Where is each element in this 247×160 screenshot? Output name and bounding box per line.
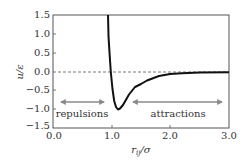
potential-curve xyxy=(108,15,229,110)
y-tick-0.0: 0.0 xyxy=(34,66,50,77)
attractions-label: attractions xyxy=(150,108,205,119)
x-tick-3.0: 3.0 xyxy=(221,130,237,141)
x-tick-labels: 0.0 1.0 2.0 3.0 xyxy=(46,130,237,141)
y-tick-1.0: 1.0 xyxy=(34,28,50,39)
x-tick-1.0: 1.0 xyxy=(104,130,120,141)
x-tick-2.0: 2.0 xyxy=(162,130,178,141)
x-tick-0.0: 0.0 xyxy=(46,130,62,141)
y-axis-label: u/ε xyxy=(14,64,25,79)
y-tick-labels: 1.5 1.0 0.5 0.0 −0.5 −1.0 −1.5 xyxy=(26,9,50,131)
x-axis-label: rij/σ xyxy=(131,144,152,157)
y-tick-1.5: 1.5 xyxy=(34,9,50,20)
y-tick-neg1.0: −1.0 xyxy=(26,103,50,114)
lennard-jones-chart: 1.5 1.0 0.5 0.0 −0.5 −1.0 −1.5 0.0 1.0 2… xyxy=(0,0,247,160)
y-tick-0.5: 0.5 xyxy=(34,47,50,58)
y-tick-neg0.5: −0.5 xyxy=(26,84,50,95)
repulsions-label: repulsions xyxy=(56,108,109,119)
